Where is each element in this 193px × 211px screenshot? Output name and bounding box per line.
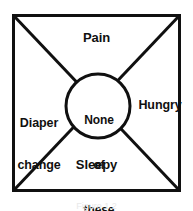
quadrant-label-left: Diaper change [10,88,68,200]
figure-caption: Figure 1.2 [0,201,193,211]
quadrant-diagram: Pain Hungry Sleepy Diaper change None of… [0,0,193,211]
quadrant-label-left-line2: change [10,158,68,172]
quadrant-label-right: Hungry [130,98,190,112]
center-circle-label-line2: of [66,158,132,173]
quadrant-label-top: Pain [0,31,193,46]
center-circle-label: None of these [66,83,132,211]
quadrant-label-left-line1: Diaper [10,116,68,130]
center-circle-label-line1: None [66,113,132,128]
